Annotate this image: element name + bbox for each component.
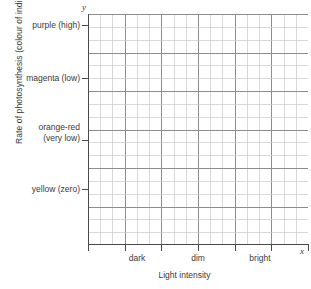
x-axis-letter: x [300, 246, 304, 256]
y-axis-line [88, 14, 89, 245]
y-tick-label-purple: purple (high) [12, 20, 80, 31]
grid-svg [88, 14, 308, 245]
x-tick-mark [125, 245, 126, 251]
x-tick-mark [308, 245, 309, 251]
x-tick-mark [235, 245, 236, 251]
y-axis-letter: y [82, 2, 86, 12]
plot-area [88, 14, 308, 244]
x-tick-mark [161, 245, 162, 251]
x-axis-title-text: Light intensity [159, 270, 211, 280]
grid-lines [88, 14, 308, 244]
y-tick-label-magenta: magenta (low) [12, 73, 80, 84]
y-axis-tick-labels: purple (high) magenta (low) orange-red (… [12, 0, 80, 245]
x-tick-label-bright: bright [249, 253, 270, 263]
x-tick-label-dark: dark [129, 253, 146, 263]
y-tick-mark-purple [82, 25, 89, 26]
chart-container: Rate of photosynthesis (colour of indica… [0, 0, 311, 289]
x-tick-mark [88, 245, 89, 251]
y-tick-mark-orange-red [82, 140, 89, 141]
x-tick-mark [198, 245, 199, 251]
x-tick-mark [271, 245, 272, 251]
x-tick-label-dim: dim [191, 253, 205, 263]
y-tick-label-yellow: yellow (zero) [12, 184, 80, 195]
y-tick-mark-yellow [82, 189, 89, 190]
y-tick-label-orange-red: orange-red (very low) [12, 122, 80, 143]
x-axis-title: Light intensity [0, 270, 311, 280]
y-tick-mark-magenta [82, 78, 89, 79]
